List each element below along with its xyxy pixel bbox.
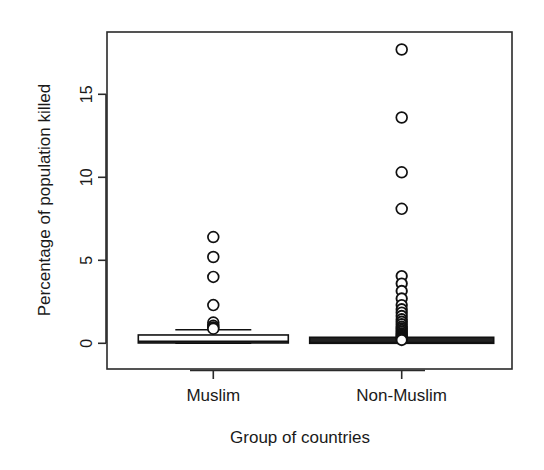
outlier-point [208, 232, 219, 243]
y-tick-label-5: 5 [78, 256, 95, 265]
boxplot-figure: 0 5 10 15 Percentage of population kille… [0, 0, 544, 470]
x-axis-title: Group of countries [230, 428, 370, 447]
outlier-point [208, 300, 219, 311]
y-tick-label-10: 10 [78, 168, 95, 186]
outlier-point [396, 167, 407, 178]
outlier-point [396, 44, 407, 55]
x-tick-label-muslim: Muslim [186, 386, 240, 405]
outlier-point [208, 323, 219, 334]
chart-canvas: 0 5 10 15 Percentage of population kille… [0, 0, 544, 470]
y-axis-title: Percentage of population killed [35, 84, 54, 317]
outlier-point [396, 112, 407, 123]
outlier-point [208, 252, 219, 263]
x-tick-label-non-muslim: Non-Muslim [356, 386, 447, 405]
chart-background [0, 0, 544, 470]
y-tick-label-0: 0 [78, 339, 95, 348]
outlier-point [396, 203, 407, 214]
y-tick-label-15: 15 [78, 85, 95, 103]
outlier-point [208, 272, 219, 283]
outlier-point [397, 335, 407, 345]
